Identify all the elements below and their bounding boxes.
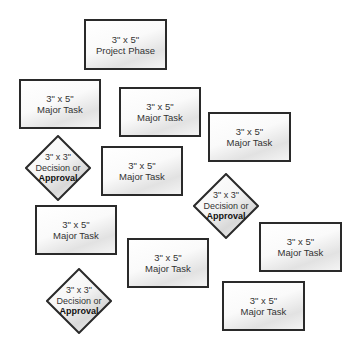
card-major-task: 3" x 5" Major Task: [127, 238, 209, 288]
card-major-task: 3" x 5" Major Task: [35, 205, 117, 255]
card-title: Major Task: [37, 104, 83, 115]
card-size-label: 3" x 5": [154, 252, 181, 263]
card-major-task: 3" x 5" Major Task: [222, 281, 305, 331]
decision-diamond: 3" x 3" Decision or Approval: [46, 268, 112, 334]
diamond-size-label: 3" x 3": [45, 152, 71, 163]
card-project-phase: 3" x 5" Project Phase: [84, 19, 167, 70]
diamond-title-bold: Approval: [206, 211, 245, 222]
card-major-task: 3" x 5" Major Task: [19, 79, 101, 129]
diamond-title-bold: Approval: [38, 173, 77, 184]
card-title: Project Phase: [96, 45, 155, 56]
decision-diamond: 3" x 3" Decision or Approval: [193, 173, 259, 239]
card-major-task: 3" x 5" Major Task: [101, 146, 183, 196]
card-major-task: 3" x 5" Major Task: [259, 222, 342, 272]
diamond-size-label: 3" x 3": [213, 190, 239, 201]
card-size-label: 3" x 5": [46, 93, 73, 104]
diamond-title: Decision or: [203, 201, 248, 212]
diamond-size-label: 3" x 3": [66, 285, 92, 296]
card-title: Major Task: [145, 263, 191, 274]
card-size-label: 3" x 5": [236, 126, 263, 137]
card-major-task: 3" x 5" Major Task: [119, 87, 201, 137]
diamond-title: Decision or: [35, 163, 80, 174]
diamond-title-bold: Approval: [59, 306, 98, 317]
card-size-label: 3" x 5": [146, 101, 173, 112]
card-title: Major Task: [53, 230, 99, 241]
decision-diamond: 3" x 3" Decision or Approval: [25, 135, 91, 201]
card-size-label: 3" x 5": [128, 160, 155, 171]
card-major-task: 3" x 5" Major Task: [208, 112, 291, 162]
card-size-label: 3" x 5": [287, 236, 314, 247]
card-title: Major Task: [227, 137, 273, 148]
diamond-title: Decision or: [56, 296, 101, 307]
card-size-label: 3" x 5": [112, 34, 139, 45]
card-title: Major Task: [137, 112, 183, 123]
card-title: Major Task: [278, 247, 324, 258]
card-title: Major Task: [241, 306, 287, 317]
card-size-label: 3" x 5": [62, 219, 89, 230]
card-title: Major Task: [119, 171, 165, 182]
card-size-label: 3" x 5": [250, 295, 277, 306]
